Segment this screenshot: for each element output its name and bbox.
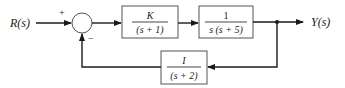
block1-denominator: (s + 1): [136, 24, 164, 36]
summing-junction: [72, 13, 92, 33]
minus-sign: −: [88, 33, 94, 44]
block2-numerator: 1: [224, 10, 229, 21]
feedback-numerator: I: [181, 55, 186, 66]
block1-numerator: K: [146, 10, 155, 21]
block2-denominator: s (s + 5): [209, 24, 243, 36]
plus-sign: +: [59, 7, 65, 18]
output-label: Y(s): [311, 15, 330, 29]
block-diagram: R(s) + − K (s + 1) 1 s (s + 5) Y(s) I (s…: [0, 0, 345, 88]
feedback-path-left: [82, 34, 161, 67]
input-label: R(s): [9, 16, 30, 30]
feedback-denominator: (s + 2): [170, 70, 198, 82]
